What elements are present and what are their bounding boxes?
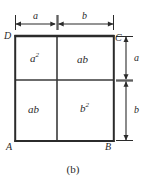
- vertex-label-A: A: [6, 142, 12, 152]
- figure-container: D C A B a b a b a2 ab ab b2 (b): [0, 0, 146, 185]
- cell-exponent-top-left: 2: [36, 51, 40, 59]
- dimension-label-right-b: b: [134, 105, 139, 115]
- figure-caption: (b): [0, 163, 146, 175]
- dimension-label-top-b: b: [82, 11, 87, 21]
- vertex-label-B: B: [105, 142, 111, 152]
- cell-label-top-left: a2: [30, 52, 39, 64]
- cell-label-bottom-left: ab: [28, 103, 39, 115]
- cell-base-bottom-left: ab: [28, 103, 39, 115]
- dimension-label-top-a: a: [33, 11, 38, 21]
- cell-label-bottom-right: b2: [80, 102, 89, 114]
- vertex-label-C: C: [115, 33, 122, 43]
- right-dimension-a: [116, 37, 133, 81]
- dimension-label-right-a: a: [134, 53, 139, 63]
- cell-base-top-right: ab: [77, 53, 88, 65]
- vertex-label-D: D: [4, 31, 11, 41]
- right-dimension-b: [116, 81, 133, 141]
- cell-label-top-right: ab: [77, 53, 88, 65]
- cell-exponent-bottom-right: 2: [86, 101, 90, 109]
- diagram-canvas: [0, 0, 146, 185]
